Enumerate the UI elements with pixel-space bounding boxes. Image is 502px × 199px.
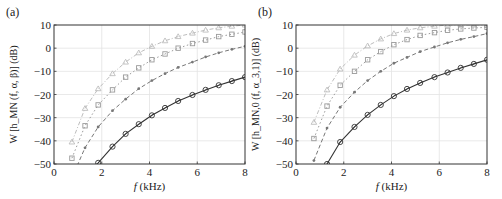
y-tick-label: −10	[276, 65, 294, 77]
y-tick-label: 10	[282, 19, 294, 31]
x-tick-label: 0	[293, 166, 299, 178]
asterisk-marker	[446, 41, 449, 44]
y-axis-label: W [h_MN,0 (f, α_3,1)] (dB)	[250, 38, 262, 151]
panel-label: (b)	[258, 5, 272, 19]
y-axis-label: W [h_MN (f, α, β)] (dB)	[8, 45, 20, 143]
x-axis-label: f (kHz)	[376, 180, 408, 193]
asterisk-marker	[84, 146, 87, 149]
x-tick-label: 2	[341, 166, 347, 178]
y-tick-label: −20	[34, 89, 52, 101]
x-tick-label: 2	[99, 166, 105, 178]
asterisk-marker	[392, 62, 395, 65]
triangle-marker	[203, 27, 209, 32]
asterisk-marker	[177, 66, 180, 69]
triangle-marker	[352, 52, 358, 57]
figure: 02468100−10−20−30−40−50(a)f (kHz)W [h_MN…	[0, 0, 502, 199]
series-triangle	[311, 22, 490, 124]
asterisk-marker	[433, 46, 436, 49]
asterisk-marker	[419, 50, 422, 53]
square-marker	[392, 42, 396, 46]
series-square	[312, 25, 489, 141]
asterisk-marker	[326, 127, 329, 130]
panel-label: (a)	[6, 5, 19, 19]
asterisk-marker	[150, 79, 153, 82]
y-tick-label: −10	[34, 65, 52, 77]
asterisk-marker	[406, 56, 409, 59]
series-triangle	[69, 22, 248, 144]
x-axis-label: f (kHz)	[134, 180, 166, 193]
x-tick-label: 4	[147, 166, 153, 178]
x-tick-label: 0	[51, 166, 57, 178]
y-tick-label: 0	[288, 42, 294, 54]
asterisk-marker	[379, 70, 382, 73]
triangle-marker	[365, 43, 371, 48]
x-tick-label: 4	[389, 166, 395, 178]
y-tick-label: −30	[276, 112, 294, 124]
x-tick-label: 8	[484, 166, 490, 178]
chart-panel-a: 02468100−10−20−30−40−50(a)f (kHz)W [h_MN…	[6, 5, 248, 193]
asterisk-marker	[111, 109, 114, 112]
y-tick-label: −50	[34, 158, 52, 170]
asterisk-marker	[191, 61, 194, 64]
asterisk-marker	[230, 48, 233, 51]
square-marker	[312, 136, 316, 140]
y-tick-label: 0	[46, 42, 52, 54]
y-tick-label: −30	[34, 112, 52, 124]
asterisk-marker	[313, 159, 316, 162]
triangle-marker	[324, 87, 330, 92]
asterisk-marker	[204, 56, 207, 59]
y-tick-label: −20	[276, 89, 294, 101]
y-tick-label: −40	[34, 135, 52, 147]
x-tick-label: 8	[242, 166, 248, 178]
square-marker	[325, 104, 329, 108]
y-tick-label: −50	[276, 158, 294, 170]
asterisk-marker	[164, 72, 167, 75]
x-tick-label: 6	[195, 166, 201, 178]
asterisk-marker	[124, 98, 127, 101]
series-star	[313, 32, 489, 162]
square-marker	[96, 103, 100, 107]
asterisk-marker	[217, 51, 220, 54]
asterisk-marker	[459, 38, 462, 41]
asterisk-marker	[137, 87, 140, 90]
y-tick-label: −40	[276, 135, 294, 147]
asterisk-marker	[353, 91, 356, 94]
asterisk-marker	[339, 106, 342, 109]
triangle-marker	[337, 66, 343, 71]
chart-panel-b: 02468100−10−20−30−40−50(b)f (kHz)W [h_MN…	[250, 5, 490, 193]
square-marker	[70, 156, 74, 160]
asterisk-marker	[366, 79, 369, 82]
asterisk-marker	[97, 126, 100, 129]
y-tick-label: 10	[40, 19, 52, 31]
triangle-marker	[123, 59, 129, 64]
x-tick-label: 6	[437, 166, 443, 178]
asterisk-marker	[472, 35, 475, 38]
